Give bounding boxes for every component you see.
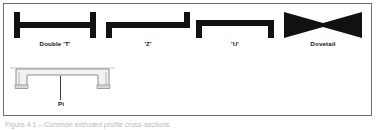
profile-dovetail: Dovetail bbox=[280, 4, 366, 62]
figure-frame: Double 'T' 'Z' bbox=[3, 3, 372, 116]
profile-label-double-t: Double 'T' bbox=[12, 40, 98, 48]
pi-leader-line bbox=[60, 76, 61, 100]
u-profile-icon bbox=[196, 12, 274, 38]
profiles-figure: Double 'T' 'Z' bbox=[0, 0, 378, 130]
profile-double-t: Double 'T' bbox=[12, 4, 98, 62]
profile-z: 'Z' bbox=[106, 4, 190, 62]
profile-label-u: 'U' bbox=[196, 40, 274, 48]
dovetail-profile-icon bbox=[280, 12, 366, 38]
profile-label-z: 'Z' bbox=[106, 40, 190, 48]
z-profile-icon bbox=[106, 12, 190, 38]
profile-label-dovetail: Dovetail bbox=[280, 40, 366, 48]
double-t-profile-icon bbox=[12, 12, 98, 38]
profile-u: 'U' bbox=[196, 4, 274, 62]
figure-caption: Figure 4.1 – Common extruded profile cro… bbox=[5, 120, 305, 130]
profiles-row: Double 'T' 'Z' bbox=[4, 4, 373, 62]
profile-label-pi: Pi bbox=[40, 100, 82, 108]
profile-pi: Pi bbox=[10, 64, 125, 116]
pi-profile-icon bbox=[10, 64, 115, 94]
